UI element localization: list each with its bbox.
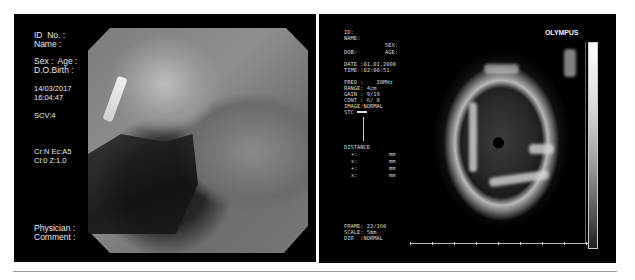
distance-unit-1: mm [389,151,396,157]
us-age-label: AGE: [385,49,398,55]
scv-value: SCV:4 [34,111,55,120]
ultrasound-echo-wall [529,144,554,154]
patient-name-label: Name : [34,40,61,49]
olympus-logo: OLYMPUS [545,29,578,36]
us-name-label: NAME: [344,35,360,41]
us-stc-label: STC [344,109,354,115]
distance-marker-3: +: [351,165,358,171]
stc-indicator [357,111,367,113]
endoscopy-panel: ID No. : Name : Sex : Age : D.O.Birth : … [14,14,316,262]
us-dob-label: DOB: [344,49,357,55]
image-settings-2: Cl:0 Z:1.0 [34,156,67,165]
dob-label: D.O.Birth : [34,66,74,75]
horizontal-scale [410,243,588,244]
exam-time: 16:04:47 [34,93,63,102]
ultrasound-panel: OLYMPUS ID: NAME: SEX: DOB: AGE: DATE :0… [319,14,616,263]
endoscopic-image-shadow [88,134,198,234]
us-direction: DIR :NORMAL [344,235,383,241]
distance-marker-1: +: [351,151,358,157]
depth-scale [585,42,586,244]
ultrasound-echo-wall [564,49,576,77]
ultrasound-echo-wall [469,102,477,172]
image-settings-1: Cr:N Ec:A5 [34,147,72,156]
distance-unit-4: mm [389,172,396,178]
exam-date: 14/03/2017 [34,84,72,93]
us-time: TIME :02:00:51 [344,67,389,73]
distance-unit-2: mm [389,158,396,164]
ultrasound-echo-wall [484,64,519,74]
distance-marker-4: x: [351,172,358,178]
stc-curve [363,117,364,141]
distance-label: DISTANCE [344,144,370,150]
grayscale-bar [588,42,598,249]
divider-line [13,271,617,272]
comment-label: Comment : [34,233,76,242]
distance-marker-2: x: [351,158,358,164]
distance-unit-3: mm [389,165,396,171]
us-sex-label: SEX: [385,42,398,48]
